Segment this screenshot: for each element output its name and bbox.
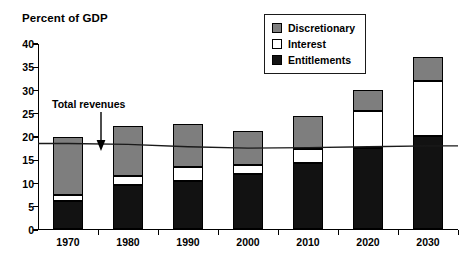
x-tick-mark (338, 230, 339, 235)
x-tick-label-2030: 2030 (416, 236, 439, 248)
legend: Discretionary Interest Entitlements (264, 14, 366, 74)
legend-item-discretionary: Discretionary (272, 20, 355, 36)
x-tick-label-2010: 2010 (296, 236, 319, 248)
y-tick-label: 25 (22, 108, 34, 120)
x-tick-label-2020: 2020 (356, 236, 379, 248)
annotation-total-revenues: Total revenues (52, 98, 125, 110)
annotation-arrow-icon (94, 112, 108, 152)
x-tick-mark (218, 230, 219, 235)
x-tick-label-1980: 1980 (116, 236, 139, 248)
y-tick-label: 0 (28, 224, 34, 236)
y-tick-label: 5 (28, 201, 34, 213)
x-tick-mark (158, 230, 159, 235)
x-tick-mark (278, 230, 279, 235)
legend-label-interest: Interest (288, 38, 326, 50)
y-tick-label: 20 (22, 131, 34, 143)
legend-label-discretionary: Discretionary (288, 22, 355, 34)
legend-swatch-interest-icon (272, 39, 282, 49)
x-tick-label-2000: 2000 (236, 236, 259, 248)
x-tick-mark (398, 230, 399, 235)
legend-swatch-entitlements-icon (272, 55, 282, 65)
y-tick-label: 40 (22, 38, 34, 50)
y-tick-label: 15 (22, 154, 34, 166)
page-title: Percent of GDP (22, 12, 108, 24)
x-tick-label-1970: 1970 (56, 236, 79, 248)
legend-swatch-discretionary-icon (272, 23, 282, 33)
x-tick-mark (98, 230, 99, 235)
y-tick-label: 35 (22, 61, 34, 73)
legend-label-entitlements: Entitlements (288, 54, 351, 66)
y-tick-label: 30 (22, 85, 34, 97)
x-tick-label-1990: 1990 (176, 236, 199, 248)
y-tick-label: 10 (22, 178, 34, 190)
x-tick-mark (458, 230, 459, 235)
legend-item-interest: Interest (272, 36, 355, 52)
chart-figure: Percent of GDP 0510152025303540 19701980… (0, 0, 472, 273)
legend-item-entitlements: Entitlements (272, 52, 355, 68)
